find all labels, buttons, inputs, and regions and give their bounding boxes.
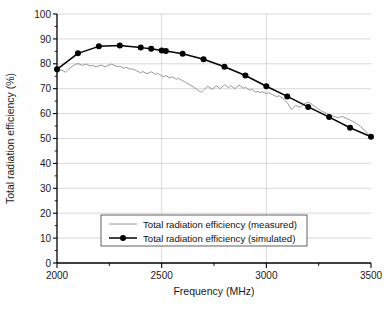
y-axis-tick-label: 70 <box>40 83 52 94</box>
legend-item-label: Total radiation efficiency (simulated) <box>143 233 295 244</box>
x-axis-tick-label: 3500 <box>360 270 383 281</box>
data-point-marker <box>117 43 123 49</box>
legend-item-label: Total radiation efficiency (measured) <box>143 219 297 230</box>
data-point-marker <box>326 114 332 120</box>
data-point-marker <box>148 46 154 52</box>
y-axis-tick-label: 60 <box>40 108 52 119</box>
data-point-marker <box>163 48 169 54</box>
data-point-marker <box>347 125 353 131</box>
data-point-marker <box>75 50 81 56</box>
y-axis-tick-label: 40 <box>40 158 52 169</box>
x-axis-tick-label: 3000 <box>255 270 278 281</box>
data-point-marker <box>242 73 248 79</box>
data-point-marker <box>138 45 144 51</box>
data-point-marker <box>96 43 102 49</box>
data-point-marker <box>305 104 311 110</box>
legend-swatch-marker <box>120 235 126 241</box>
data-point-marker <box>284 93 290 99</box>
radiation-efficiency-chart: 01020304050607080901002000250030003500Fr… <box>0 0 386 313</box>
y-axis-tick-label: 90 <box>40 34 52 45</box>
y-axis-title: Total radiation efficiency (%) <box>4 73 16 204</box>
data-point-marker <box>180 51 186 57</box>
y-axis-tick-label: 30 <box>40 183 52 194</box>
y-axis-tick-label: 50 <box>40 133 52 144</box>
y-axis-tick-label: 20 <box>40 208 52 219</box>
x-axis-tick-label: 2500 <box>151 270 174 281</box>
data-point-marker <box>263 83 269 89</box>
data-point-marker <box>221 64 227 70</box>
y-axis-tick-label: 80 <box>40 58 52 69</box>
data-point-marker <box>368 134 374 140</box>
y-axis-tick-label: 0 <box>45 258 51 269</box>
chart-container: 01020304050607080901002000250030003500Fr… <box>0 0 386 313</box>
data-point-marker <box>201 56 207 62</box>
y-axis-tick-label: 10 <box>40 233 52 244</box>
x-axis-title: Frequency (MHz) <box>173 285 254 297</box>
y-axis-tick-label: 100 <box>34 9 51 20</box>
x-axis-tick-label: 2000 <box>46 270 69 281</box>
